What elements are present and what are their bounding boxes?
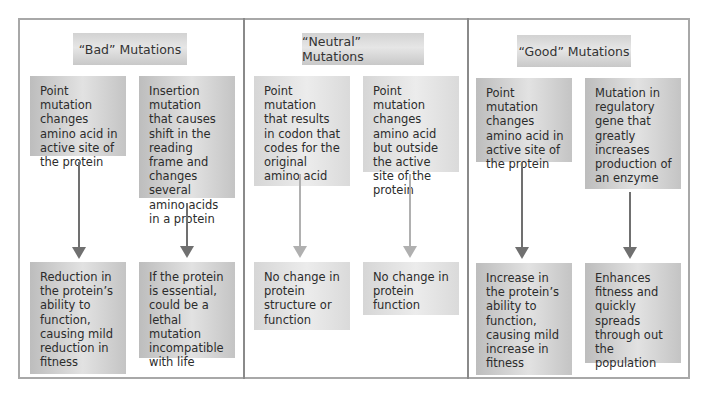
arrow-down-icon: [515, 163, 529, 259]
cause-box: Point mutation changes amino acid in act…: [476, 78, 572, 162]
section-title-neutral: “Neutral” Mutations: [302, 33, 424, 65]
section-title-good: “Good” Mutations: [517, 35, 631, 67]
section-title-bad: “Bad” Mutations: [73, 33, 187, 65]
effect-box: No change in protein function: [363, 262, 459, 315]
arrow-down-icon: [180, 203, 194, 258]
arrow-down-icon: [72, 162, 86, 259]
cause-box: Insertion mutation that causes shift in …: [139, 76, 235, 198]
effect-box: No change in protein structure or functi…: [254, 262, 350, 330]
cause-box: Point mutation that results in codon tha…: [254, 76, 350, 186]
cause-box: Point mutation changes amino acid but ou…: [363, 76, 459, 172]
effect-box: Increase in the protein’s ability to fun…: [476, 263, 572, 375]
arrow-down-icon: [623, 192, 637, 259]
section-divider: [467, 18, 469, 379]
cause-box: Point mutation changes amino acid in act…: [30, 76, 126, 156]
cause-box: Mutation in regulatory gene that greatly…: [585, 78, 681, 189]
section-divider: [243, 18, 245, 379]
effect-box: Reduction in the protein’s ability to fu…: [30, 262, 126, 374]
arrow-down-icon: [293, 174, 307, 258]
arrow-down-icon: [403, 174, 417, 258]
effect-box: Enhances fitness and quickly spreads thr…: [585, 263, 681, 363]
effect-box: If the protein is essential, could be a …: [139, 262, 235, 358]
